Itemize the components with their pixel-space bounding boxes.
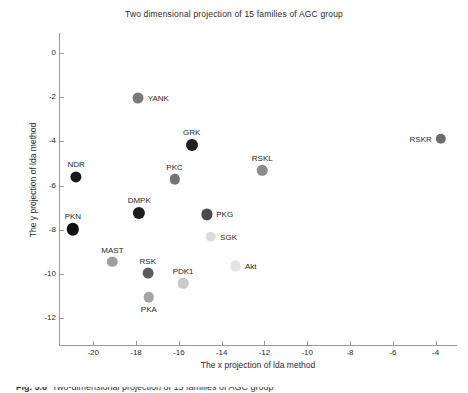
data-point-label-rskl: RSKL xyxy=(252,154,273,163)
data-point-rsk[interactable] xyxy=(142,268,153,279)
figure-caption-clipped: Fig. 5.6 Two-dimensional projection of 1… xyxy=(16,387,436,393)
figure-caption-text: Fig. 5.6 Two-dimensional projection of 1… xyxy=(16,387,274,392)
y-tick-mark xyxy=(59,274,64,275)
x-axis-title: The x projection of lda method xyxy=(59,360,457,370)
x-tick-mark xyxy=(393,341,394,346)
x-tick-mark xyxy=(436,341,437,346)
data-point-akt[interactable] xyxy=(230,261,241,272)
data-point-pkc[interactable] xyxy=(169,174,179,184)
data-point-label-dmpk: DMPK xyxy=(128,196,151,205)
y-tick-label-wrap: -12 xyxy=(30,313,56,323)
y-tick-mark xyxy=(59,97,64,98)
data-point-label-rsk: RSK xyxy=(140,257,156,266)
x-tick-mark xyxy=(179,341,180,346)
y-tick-mark xyxy=(59,53,64,54)
x-tick-label: -6 xyxy=(378,348,408,357)
data-point-grk[interactable] xyxy=(186,139,198,151)
data-point-rskl[interactable] xyxy=(257,165,268,176)
data-point-pdk1[interactable] xyxy=(178,278,189,289)
data-point-label-sgk: SGK xyxy=(220,232,237,241)
data-point-pka[interactable] xyxy=(144,292,155,303)
data-point-label-pdk1: PDK1 xyxy=(173,267,194,276)
x-tick-mark xyxy=(136,341,137,346)
y-tick-label: 0 xyxy=(34,48,56,57)
chart-title: Two dimensional projection of 15 familie… xyxy=(0,9,468,19)
data-point-label-pkn: PKN xyxy=(65,212,81,221)
y-tick-label-wrap: 0 xyxy=(30,48,56,58)
x-tick-label: -8 xyxy=(335,348,365,357)
x-tick-label: -18 xyxy=(121,348,151,357)
data-point-label-rskr: RSKR xyxy=(410,134,432,143)
x-tick-label: -16 xyxy=(164,348,194,357)
data-point-label-yank: YANK xyxy=(148,94,169,103)
data-point-label-pka: PKA xyxy=(141,305,157,314)
x-tick-mark xyxy=(264,341,265,346)
data-point-label-mast: MAST xyxy=(101,246,123,255)
x-tick-label: -12 xyxy=(249,348,279,357)
data-point-yank[interactable] xyxy=(133,93,144,104)
x-axis-line xyxy=(59,345,457,346)
y-tick-mark xyxy=(59,141,64,142)
data-point-label-pkg: PKG xyxy=(216,210,233,219)
y-tick-mark xyxy=(59,186,64,187)
y-tick-mark xyxy=(59,318,64,319)
x-tick-mark xyxy=(93,341,94,346)
data-point-rskr[interactable] xyxy=(436,134,446,144)
data-point-mast[interactable] xyxy=(107,257,117,267)
data-point-label-akt: Akt xyxy=(245,262,257,271)
y-axis-line xyxy=(59,33,60,346)
x-tick-mark xyxy=(307,341,308,346)
y-tick-mark xyxy=(59,230,64,231)
x-tick-mark xyxy=(222,341,223,346)
data-point-label-grk: GRK xyxy=(183,128,200,137)
x-tick-mark xyxy=(350,341,351,346)
data-point-sgk[interactable] xyxy=(206,231,216,241)
data-point-pkn[interactable] xyxy=(67,223,79,235)
data-point-ndr[interactable] xyxy=(71,171,82,182)
figure-scatter-plot: Two dimensional projection of 15 familie… xyxy=(0,0,468,393)
x-tick-label: -10 xyxy=(292,348,322,357)
data-point-dmpk[interactable] xyxy=(133,207,145,219)
x-tick-label: -14 xyxy=(207,348,237,357)
x-tick-label: -20 xyxy=(78,348,108,357)
y-axis-title: The y projection of lda method xyxy=(28,85,38,275)
x-tick-label: -4 xyxy=(421,348,451,357)
data-point-label-pkc: PKC xyxy=(166,163,182,172)
data-point-label-ndr: NDR xyxy=(67,160,84,169)
y-tick-label: -12 xyxy=(34,313,56,322)
data-point-pkg[interactable] xyxy=(201,209,212,220)
